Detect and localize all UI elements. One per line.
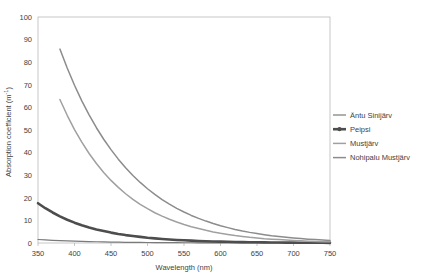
plot-area-frame [38,17,330,243]
chart-figure: 0102030405060708090100 35040045050055060… [0,0,431,275]
x-axis-tick-labels: 350400450500550600650700750 [32,249,337,258]
x-axis-title: Wavelength (nm) [156,263,213,272]
legend-label-1: Peipsi [350,125,371,134]
legend-label-2: Mustjärv [350,139,379,148]
data-curves [38,49,330,243]
x-tick-700: 700 [287,249,300,258]
x-tick-550: 550 [178,249,191,258]
y-axis-tick-labels: 0102030405060708090100 [19,13,32,248]
y-tick-90: 90 [24,35,32,44]
y-tick-50: 50 [24,126,32,135]
y-tick-10: 10 [24,216,32,225]
y-tick-100: 100 [19,13,32,22]
x-tick-750: 750 [324,249,337,258]
y-tick-30: 30 [24,171,32,180]
chart-legend: Äntu SinijärvPeipsiMustjärvNohipalu Must… [333,111,410,163]
x-tick-600: 600 [214,249,227,258]
x-tick-350: 350 [32,249,45,258]
y-tick-60: 60 [24,103,32,112]
x-tick-400: 400 [68,249,81,258]
curve-series-3 [60,49,330,240]
legend-label-3: Nohipalu Mustjärv [350,153,410,162]
curve-series-2 [60,99,330,241]
y-tick-40: 40 [24,148,32,157]
y-tick-70: 70 [24,81,32,90]
legend-marker-1 [337,127,341,131]
y-tick-0: 0 [28,239,32,248]
x-tick-450: 450 [105,249,118,258]
legend-label-0: Äntu Sinijärv [350,111,392,120]
x-tick-500: 500 [141,249,154,258]
y-tick-80: 80 [24,58,32,67]
y-tick-20: 20 [24,194,32,203]
svg-text:Absorption coefficient (m-1): Absorption coefficient (m-1) [3,87,13,177]
absorption-spectra-chart: 0102030405060708090100 35040045050055060… [0,0,431,275]
y-axis-title: Absorption coefficient (m-1) [3,87,13,177]
x-tick-650: 650 [251,249,264,258]
